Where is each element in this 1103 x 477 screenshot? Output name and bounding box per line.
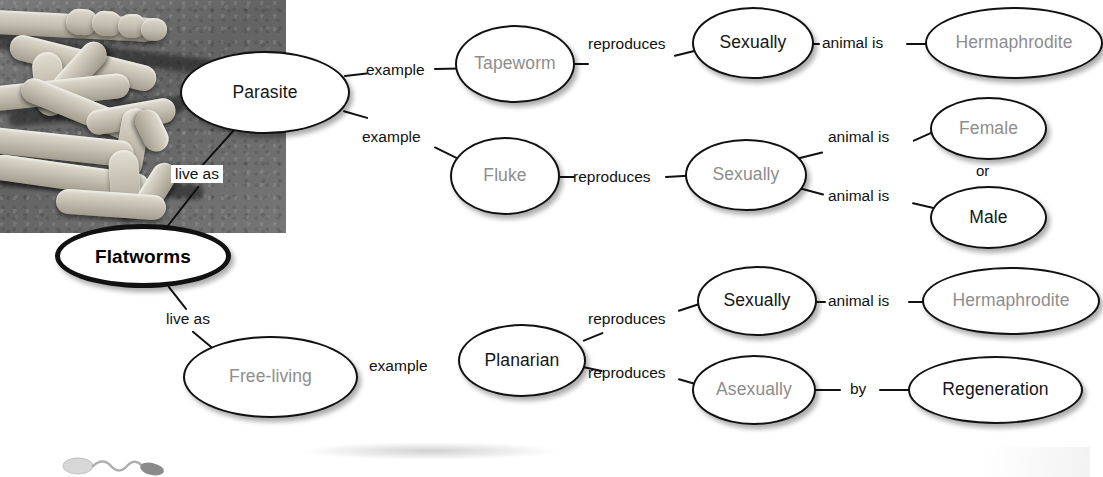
node-fluke[interactable]: Fluke [450, 137, 560, 215]
node-free-living-label: Free-living [229, 368, 312, 386]
edge-label-animal-is-1: animal is [822, 35, 883, 51]
edge-label-animal-is-4: animal is [828, 293, 889, 309]
node-parasite[interactable]: Parasite [180, 51, 350, 134]
decorative-worm-icon [62, 455, 182, 477]
edge-label-live-as-2: live as [166, 311, 210, 327]
edge-label-example-3: example [369, 358, 428, 374]
node-planarian[interactable]: Planarian [458, 324, 586, 397]
node-asexually-label: Asexually [716, 381, 792, 399]
edge-label-example-1: example [366, 62, 425, 78]
node-hermaphrodite-2-label: Hermaphrodite [952, 292, 1069, 310]
edge-label-animal-is-3: animal is [828, 188, 889, 204]
edge-label-live-as-1: live as [171, 165, 223, 183]
label-or: or [976, 163, 989, 178]
edge-label-example-2: example [362, 129, 421, 145]
edge-label-reproduces-2: reproduces [573, 169, 651, 185]
node-sexually-1-label: Sexually [720, 34, 787, 52]
edge-label-reproduces-3: reproduces [588, 311, 666, 327]
node-tapeworm-label: Tapeworm [474, 55, 556, 73]
node-hermaphrodite-2[interactable]: Hermaphrodite [922, 267, 1100, 335]
node-hermaphrodite-1[interactable]: Hermaphrodite [925, 7, 1103, 79]
edge-label-reproduces-4: reproduces [588, 365, 666, 381]
node-sexually-1[interactable]: Sexually [692, 7, 814, 79]
page-smudge [300, 442, 560, 460]
node-male[interactable]: Male [930, 186, 1047, 249]
edge-label-by: by [850, 381, 866, 397]
edge-label-reproduces-1: reproduces [588, 36, 666, 52]
edge-planarian-reproduces1 [583, 332, 604, 342]
node-male-label: Male [969, 209, 1007, 227]
node-sexually-3[interactable]: Sexually [697, 266, 817, 336]
node-hermaphrodite-1-label: Hermaphrodite [955, 34, 1072, 52]
node-planarian-label: Planarian [485, 352, 560, 370]
node-sexually-2-label: Sexually [713, 166, 780, 184]
node-sexually-2[interactable]: Sexually [685, 139, 807, 211]
edge-label-animal-is-2: animal is [828, 129, 889, 145]
node-parasite-label: Parasite [233, 84, 298, 102]
node-regeneration-label: Regeneration [942, 381, 1048, 399]
node-female-label: Female [959, 120, 1018, 138]
node-sexually-3-label: Sexually [724, 292, 791, 310]
node-tapeworm[interactable]: Tapeworm [455, 25, 575, 103]
edge-parasite-fluke [343, 110, 369, 119]
edge-tapeworm-reproduces [573, 63, 589, 65]
node-flatworms[interactable]: Flatworms [55, 224, 231, 288]
edge-flatworms-freeliving [167, 285, 187, 310]
node-female[interactable]: Female [930, 97, 1047, 160]
node-regeneration[interactable]: Regeneration [908, 356, 1083, 424]
node-fluke-label: Fluke [483, 167, 526, 185]
node-flatworms-label: Flatworms [95, 247, 191, 266]
node-free-living[interactable]: Free-living [183, 336, 358, 418]
page-fold [910, 447, 1090, 477]
node-asexually[interactable]: Asexually [692, 355, 816, 425]
edge-parasite-tapeworm [344, 72, 368, 77]
